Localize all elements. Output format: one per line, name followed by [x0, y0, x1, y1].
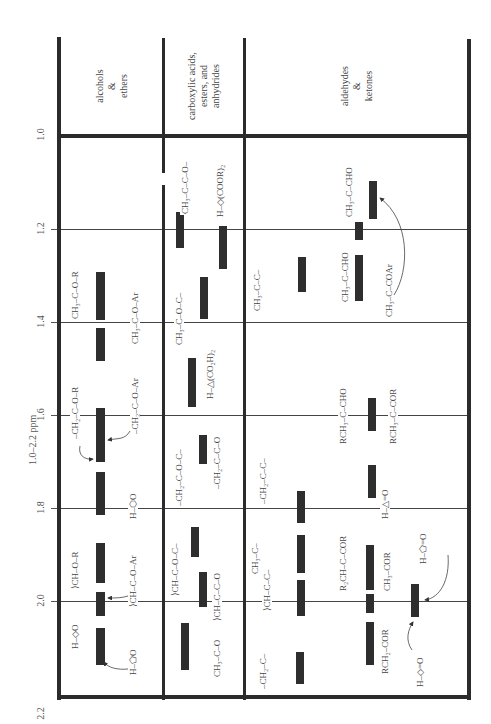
structure-label: H–◇(COOR)₂ [215, 164, 225, 218]
structure-label: H–⬡O [128, 493, 138, 521]
arrow-icon [408, 622, 413, 650]
tick-label-1-8: 1.8 [35, 496, 46, 520]
shift-bar [96, 543, 105, 583]
structure-label: CH₃–C–O [212, 639, 222, 678]
column-header-alcohols-ethers: alcohols & ethers [61, 37, 162, 134]
shift-bar [96, 408, 105, 462]
structure-label: R₂CH–C–COR [338, 535, 348, 592]
structure-label: CH₃–C–O–C– [174, 292, 184, 346]
arrow-icon [104, 662, 128, 669]
gridline-1-6 [57, 415, 469, 416]
header-alcohols-ethers-text: alcohols & ethers [93, 69, 129, 102]
structure-label: CH₃–C–C– [252, 269, 262, 312]
gridline-1-4 [57, 322, 469, 323]
tick-label-2-0: 2.0 [35, 589, 46, 613]
frame-right-border [467, 39, 471, 700]
shift-bar [96, 592, 105, 616]
shift-bar [366, 545, 374, 590]
structure-label: H–△=O [380, 489, 390, 521]
shift-bar [297, 580, 305, 616]
shift-bar [366, 594, 374, 613]
tick-label-1-2: 1.2 [35, 217, 46, 241]
shift-bar [191, 527, 199, 557]
header-acids-text: carboxylic acids, esters, and anhydrides [186, 52, 222, 120]
structure-label: CH₃–C–O–Ar [130, 292, 140, 345]
column-divider-1b [162, 185, 165, 700]
shift-bar [411, 584, 419, 617]
tick-label-1-0: 1.0 [35, 123, 46, 147]
structure-label: –CH₂–C–C–O [212, 436, 222, 490]
structure-label: ⟩CH–C–C– [262, 568, 272, 612]
arrow-icon [425, 555, 448, 600]
arrow-icon [108, 431, 130, 440]
frame-bottom-border [57, 695, 471, 699]
column-header-aldehydes-ketones: aldehydes & ketones [246, 37, 467, 134]
tick-label-1-6: 1.6 [35, 403, 46, 427]
structure-label: –CH₂–C–O–C– [174, 448, 184, 507]
structure-label: –CH₂–C–C– [258, 457, 268, 505]
shift-bar [199, 435, 207, 464]
structure-label: CH₃–C–COAr [384, 263, 394, 318]
structure-label: ⟩CH–C–C–O [212, 572, 222, 622]
structure-label: H–⬠=O [418, 532, 428, 565]
shift-bar [297, 491, 305, 523]
column-header-acids-esters-anhydrides: carboxylic acids, esters, and anhydrides [165, 37, 243, 134]
structure-label: ⟩CH–C–O–C– [170, 542, 180, 597]
arrow-icon [80, 446, 93, 459]
shift-bar [176, 212, 184, 248]
shift-bar [355, 222, 363, 240]
shift-bar [96, 272, 105, 320]
tick-label-2-2: 2.2 [35, 702, 46, 724]
shift-bar [355, 255, 363, 301]
shift-bar [96, 472, 105, 515]
structure-label: ⟩CH–O–R [70, 550, 80, 590]
shift-bar [298, 257, 306, 292]
structure-label: ⟩CH–C–O–Ar [128, 554, 138, 608]
shift-bar [219, 226, 227, 269]
structure-label: H–◇=O [415, 657, 425, 689]
shift-bar [369, 181, 377, 219]
tick-label-1-4: 1.4 [35, 310, 46, 334]
structure-label: H–◇O [70, 624, 80, 650]
header-aldehydes-text: aldehydes & ketones [339, 66, 375, 106]
gridline-1-2 [57, 229, 469, 230]
shift-bar [181, 623, 189, 670]
shift-bar [297, 535, 305, 573]
structure-label: RCH₃–C–COR [388, 388, 398, 445]
shift-bar [200, 277, 208, 319]
arrow-icon [108, 596, 128, 598]
shift-bar [368, 465, 376, 498]
structure-label: RCH₂–COR [380, 628, 390, 675]
structure-label: –CH₂–C–O–Ar [130, 377, 140, 435]
shift-bar [199, 572, 207, 607]
shift-bar [96, 628, 105, 665]
shift-bar [188, 358, 196, 407]
shift-bar [366, 622, 374, 665]
shift-bar [96, 328, 105, 361]
structure-label: CH₃–COR [382, 551, 392, 592]
structure-label: CH₃–C–CHO [340, 251, 350, 303]
structure-label: –CH₂–C– [258, 653, 268, 690]
structure-label: RCH₃–C–CHO [338, 387, 348, 445]
shift-bar [368, 398, 376, 431]
shift-bar [296, 652, 304, 684]
structure-label: –CH₂–C–O–R [70, 386, 80, 440]
gridline-1-8 [57, 508, 469, 509]
structure-label: H–⬠O [128, 649, 138, 677]
structure-label: CH₃–C–C–O– [180, 161, 190, 215]
structure-label: H–△(CO₂H)₂ [205, 349, 215, 400]
structure-label: CH₃–C–O–R [70, 270, 80, 320]
structure-label: CH₃–C–CHO [344, 166, 354, 218]
header-bottom-border [57, 134, 471, 138]
structure-label: CH₃–C– [250, 542, 260, 575]
